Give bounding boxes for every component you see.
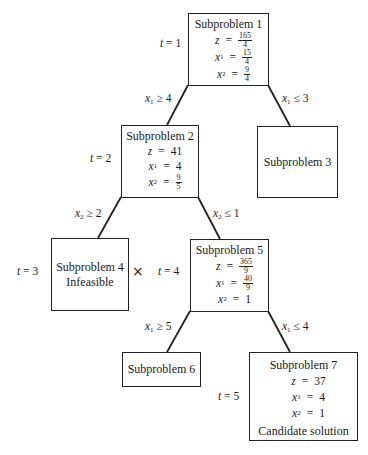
infeasible-status: Infeasible	[66, 275, 113, 290]
node-title: Subproblem 2	[126, 129, 194, 144]
node-subproblem-3: Subproblem 3	[257, 126, 338, 198]
iteration-label-t5: t = 5	[218, 390, 239, 402]
x1-value: 4	[176, 159, 182, 174]
candidate-solution-status: Candidate solution	[258, 424, 348, 439]
equals-sign: =	[226, 259, 233, 274]
equals-sign: =	[232, 67, 239, 82]
x1-value-row: x1 = 40 9	[216, 275, 253, 292]
bound-value: 3	[303, 92, 309, 104]
denominator: 9	[246, 284, 250, 292]
subscript: 1	[221, 276, 225, 291]
iteration-label-t1: t = 1	[160, 37, 181, 49]
z-value: 41	[171, 144, 183, 159]
bound-value: 4	[166, 92, 172, 104]
iteration-label-t3: t = 3	[17, 265, 38, 277]
bound-value: 5	[166, 320, 172, 332]
subscript: 2	[297, 405, 301, 421]
x2-value-row: x2 = 1	[218, 292, 251, 307]
z-symbol: z	[148, 144, 152, 159]
equals-sign: =	[307, 405, 314, 421]
x1-value-row: x1 = 15 4	[215, 49, 252, 66]
t-symbol: t	[90, 152, 93, 164]
iteration-label-t2: t = 2	[90, 152, 111, 164]
subscript: 2	[222, 67, 226, 82]
z-value: 37	[314, 373, 326, 389]
edge-label-x1-le-3: x1 ≤ 3	[282, 92, 308, 106]
equals-sign: =	[231, 276, 238, 291]
t-value: 2	[105, 152, 111, 164]
t-symbol: t	[158, 265, 161, 277]
edge-sp2-sp4	[98, 197, 121, 238]
node-subproblem-1: Subproblem 1 z = 165 4 x1 = 15 4 x2 = 9 …	[188, 13, 269, 86]
equals-sign: =	[163, 159, 170, 174]
subscript: 1	[150, 326, 154, 334]
denominator: 5	[177, 183, 181, 191]
node-title: Subproblem 5	[196, 243, 264, 258]
node-subproblem-5: Subproblem 5 z = 365 9 x1 = 40 9 x2 = 1	[190, 239, 269, 312]
pruned-x-icon: ×	[132, 263, 144, 279]
t-symbol: t	[160, 37, 163, 49]
t-value: 3	[32, 265, 38, 277]
operator: ≤	[293, 92, 299, 104]
node-title: Subproblem 1	[195, 17, 263, 32]
edge-label-x1-le-4: x1 ≤ 4	[282, 320, 308, 334]
x2-value-row: x2 = 9 4	[217, 66, 250, 83]
equals-sign: =	[158, 144, 165, 159]
x1-value-row: x1 = 4	[292, 389, 325, 405]
x2-fraction: 9 5	[176, 174, 182, 191]
edge-label-x2-le-1: x2 ≤ 1	[213, 207, 239, 221]
node-title: Subproblem 4	[56, 260, 124, 275]
iteration-label-t4: t = 4	[158, 265, 179, 277]
x2-value-row: x2 = 9 5	[148, 174, 181, 191]
t-value: 5	[233, 390, 239, 402]
subscript: 2	[80, 213, 84, 221]
operator: ≤	[224, 207, 230, 219]
t-value: 1	[175, 37, 181, 49]
node-title: Subproblem 6	[128, 362, 196, 377]
node-title: Subproblem 7	[270, 357, 338, 373]
x2-value: 1	[245, 292, 251, 307]
subscript: 1	[154, 159, 158, 174]
edge-label-x1-ge-5: x1 ≥ 5	[145, 320, 171, 334]
z-value-row: z = 365 9	[216, 258, 253, 275]
z-symbol: z	[215, 33, 219, 48]
subscript: 2	[223, 292, 227, 307]
node-subproblem-6: Subproblem 6	[122, 352, 201, 387]
t-symbol: t	[218, 390, 221, 402]
denominator: 4	[245, 75, 249, 83]
operator: ≥	[86, 207, 92, 219]
subscript: 2	[218, 213, 222, 221]
subscript: 1	[150, 98, 154, 106]
equals-sign: =	[233, 292, 240, 307]
equals-sign: =	[230, 50, 237, 65]
edge-label-x2-ge-2: x2 ≥ 2	[75, 207, 101, 221]
x1-value-row: x1 = 4	[149, 159, 182, 174]
equals-sign: =	[307, 389, 314, 405]
equals-sign: =	[225, 33, 232, 48]
bound-value: 4	[303, 320, 309, 332]
z-value-row: z = 37	[291, 373, 325, 389]
x1-fraction: 40 9	[243, 275, 253, 292]
z-fraction: 165 4	[238, 32, 252, 49]
z-value-row: z = 165 4	[215, 32, 252, 49]
x2-value-row: x2 = 1	[292, 405, 325, 421]
node-subproblem-4: Subproblem 4 Infeasible	[51, 238, 129, 311]
subscript: 1	[297, 389, 301, 405]
z-value-row: z = 41	[148, 144, 182, 159]
x1-fraction: 15 4	[242, 49, 252, 66]
operator: ≤	[293, 320, 299, 332]
edge-label-x1-ge-4: x1 ≥ 4	[145, 92, 171, 106]
equals-sign: =	[163, 175, 170, 190]
node-title: Subproblem 3	[264, 155, 332, 170]
equals-sign: =	[302, 373, 309, 389]
subscript: 1	[287, 98, 291, 106]
subscript: 1	[220, 50, 224, 65]
x1-value: 4	[319, 389, 325, 405]
z-fraction: 365 9	[239, 258, 253, 275]
subscript: 2	[154, 175, 158, 190]
bound-value: 2	[96, 207, 102, 219]
t-symbol: t	[17, 265, 20, 277]
subscript: 1	[287, 326, 291, 334]
operator: ≥	[156, 320, 162, 332]
z-symbol: z	[291, 373, 295, 389]
